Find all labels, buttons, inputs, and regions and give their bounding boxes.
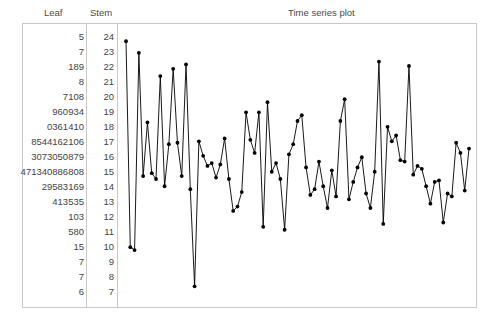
- series-point: [128, 245, 132, 249]
- series-point: [274, 161, 278, 165]
- series-point: [244, 110, 248, 114]
- leaf-value: 0361410: [47, 120, 84, 134]
- series-point: [390, 139, 394, 143]
- series-point: [411, 173, 415, 177]
- stem-leaf-row: 723: [23, 45, 117, 59]
- leaf-value: 471340886808: [21, 165, 84, 179]
- series-point: [394, 134, 398, 138]
- series-point: [283, 228, 287, 232]
- series-point: [360, 155, 364, 159]
- series-point: [253, 151, 257, 155]
- series-point: [463, 189, 467, 193]
- stem-leaf-row: 821: [23, 75, 117, 89]
- series-point: [437, 179, 441, 183]
- time-series-svg: [118, 24, 477, 307]
- series-point: [227, 177, 231, 181]
- stem-leaf-row: 67: [23, 285, 117, 299]
- series-point: [163, 184, 167, 188]
- figure-panel: 5247231892282171082096093419036141018854…: [22, 23, 477, 308]
- series-point: [223, 137, 227, 141]
- series-point: [278, 177, 282, 181]
- series-point: [206, 164, 210, 168]
- series-point: [364, 192, 368, 196]
- stem-leaf-row: 10312: [23, 210, 117, 224]
- leaf-value: 580: [68, 225, 84, 239]
- series-point: [146, 121, 150, 125]
- series-point: [201, 154, 205, 158]
- series-point: [158, 74, 162, 78]
- stem-value: 15: [86, 165, 114, 179]
- series-point: [291, 142, 295, 146]
- time-series-plot: [118, 24, 477, 307]
- series-point: [450, 195, 454, 199]
- series-point: [403, 160, 407, 164]
- stem-leaf-row: 96093419: [23, 105, 117, 119]
- stem-value: 19: [86, 105, 114, 119]
- stem-value: 22: [86, 60, 114, 74]
- series-point: [270, 170, 274, 174]
- series-point: [218, 163, 222, 167]
- series-point: [429, 202, 433, 206]
- stem-value: 20: [86, 90, 114, 104]
- leaf-value: 29583169: [42, 180, 84, 194]
- stem-value: 10: [86, 240, 114, 254]
- series-point: [248, 138, 252, 142]
- stem-leaf-timeseries-figure: Leaf Stem Time series plot 5247231892282…: [0, 0, 487, 319]
- series-point: [167, 142, 171, 146]
- series-point: [266, 100, 270, 104]
- stem-value: 17: [86, 135, 114, 149]
- series-point: [188, 187, 192, 191]
- leaf-value: 5: [79, 30, 84, 44]
- series-point: [351, 180, 355, 184]
- figure-header: Leaf Stem Time series plot: [0, 4, 487, 22]
- series-point: [124, 39, 128, 43]
- series-point: [381, 222, 385, 226]
- series-point: [326, 206, 330, 210]
- series-point: [137, 51, 141, 55]
- series-point: [197, 139, 201, 143]
- series-point: [231, 209, 235, 213]
- series-point: [368, 206, 372, 210]
- stem-value: 14: [86, 180, 114, 194]
- series-point: [416, 164, 420, 168]
- series-point: [433, 180, 437, 184]
- series-point: [141, 174, 145, 178]
- stem-value: 13: [86, 195, 114, 209]
- series-point: [459, 151, 463, 155]
- stem-leaf-row: 854416210617: [23, 135, 117, 149]
- series-point: [240, 190, 244, 194]
- stem-value: 18: [86, 120, 114, 134]
- series-point: [377, 60, 381, 64]
- stem-value: 9: [86, 255, 114, 269]
- series-point: [399, 158, 403, 162]
- series-point: [347, 197, 351, 201]
- series-point: [171, 67, 175, 71]
- stem-leaf-row: 58011: [23, 225, 117, 239]
- stem-value: 16: [86, 150, 114, 164]
- stem-leaf-row: 710820: [23, 90, 117, 104]
- stem-value: 11: [86, 225, 114, 239]
- leaf-value: 103: [68, 210, 84, 224]
- stem-leaf-row: 524: [23, 30, 117, 44]
- series-point: [304, 166, 308, 170]
- series-point: [257, 110, 261, 114]
- series-point: [373, 170, 377, 174]
- leaf-value: 7: [79, 255, 84, 269]
- page-title: Time series plot: [288, 6, 355, 20]
- stem-value: 23: [86, 45, 114, 59]
- series-point: [321, 184, 325, 188]
- series-point: [338, 119, 342, 123]
- leaf-value: 8544162106: [31, 135, 84, 149]
- leaf-value: 15: [73, 240, 84, 254]
- series-point: [287, 152, 291, 156]
- series-point: [150, 171, 154, 175]
- leaf-value: 7108: [63, 90, 84, 104]
- stem-column-header: Stem: [90, 6, 112, 20]
- series-point: [300, 113, 304, 117]
- series-point: [193, 284, 197, 288]
- series-point: [210, 161, 214, 165]
- stem-leaf-row: 79: [23, 255, 117, 269]
- series-line: [126, 41, 469, 286]
- series-point: [214, 176, 218, 180]
- leaf-value: 6: [79, 285, 84, 299]
